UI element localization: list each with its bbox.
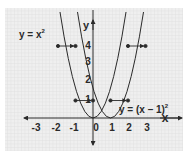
x-tick-neg1: -1 xyxy=(70,122,79,133)
x-tick-neg3: -3 xyxy=(32,122,41,133)
x-tick-3: 3 xyxy=(144,122,150,133)
y-tick-1: 1 xyxy=(85,94,91,105)
y-tick-2: 2 xyxy=(85,74,91,85)
y-tick-4: 4 xyxy=(85,40,91,51)
curve2-label: y = (x – 1)2 xyxy=(119,103,169,115)
y-tick-3: 3 xyxy=(85,56,91,67)
x-tick-2: 2 xyxy=(126,122,132,133)
y-axis-label: y xyxy=(83,19,90,31)
x-tick-neg2: -2 xyxy=(52,122,61,133)
x-tick-0: 0 xyxy=(93,122,99,133)
x-tick-1: 1 xyxy=(109,122,115,133)
graph-transformation-chart: -3 -2 -1 0 1 2 3 1 2 3 4 y x y = x2 y = … xyxy=(0,0,190,159)
